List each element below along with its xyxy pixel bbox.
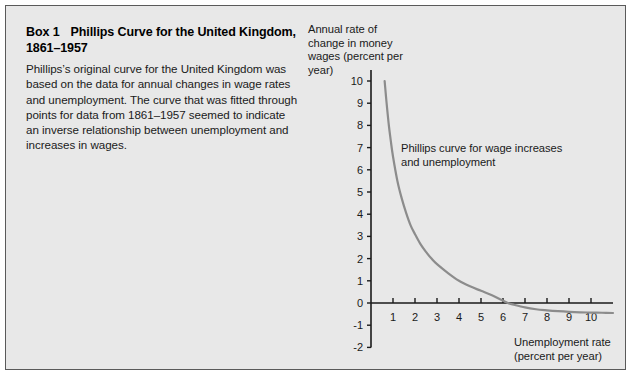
y-tick-label: 0: [357, 297, 363, 309]
box-body-text: Phillips’s original curve for the United…: [26, 61, 298, 153]
y-tick-label: -2: [353, 341, 363, 353]
x-tick-label: 2: [412, 311, 418, 323]
x-axis: 12345678910: [371, 298, 613, 323]
box-title-text: Phillips Curve for the United Kingdom, 1…: [26, 25, 296, 55]
y-tick-label: 7: [357, 142, 363, 154]
x-tick-label: 6: [500, 311, 506, 323]
y-axis: -2-1012345678910: [351, 70, 371, 353]
box-text-panel: Box 1Phillips Curve for the United Kingd…: [26, 25, 298, 153]
phillips-curve-chart: Annual rate of change in money wages (pe…: [302, 6, 627, 371]
y-tick-label: 2: [357, 253, 363, 265]
y-tick-label: 5: [357, 186, 363, 198]
box-title: Box 1Phillips Curve for the United Kingd…: [26, 25, 298, 56]
x-tick-label: 4: [456, 311, 462, 323]
x-tick-label: 1: [390, 311, 396, 323]
figure-panel: Box 1Phillips Curve for the United Kingd…: [5, 5, 626, 370]
x-tick-label: 5: [478, 311, 484, 323]
y-tick-label: 9: [357, 97, 363, 109]
y-tick-label: 6: [357, 164, 363, 176]
y-tick-label: 1: [357, 275, 363, 287]
phillips-curve-line: [385, 81, 613, 313]
y-tick-label: -1: [353, 319, 363, 331]
y-tick-label: 3: [357, 230, 363, 242]
box-number-label: Box 1: [26, 25, 60, 39]
y-tick-label: 4: [357, 208, 363, 220]
y-tick-label: 8: [357, 119, 363, 131]
x-tick-label: 3: [434, 311, 440, 323]
chart-plot-area: -2-1012345678910 12345678910: [302, 6, 627, 371]
y-tick-label: 10: [351, 75, 363, 87]
x-tick-label: 7: [522, 311, 528, 323]
x-tick-label: 8: [544, 311, 550, 323]
